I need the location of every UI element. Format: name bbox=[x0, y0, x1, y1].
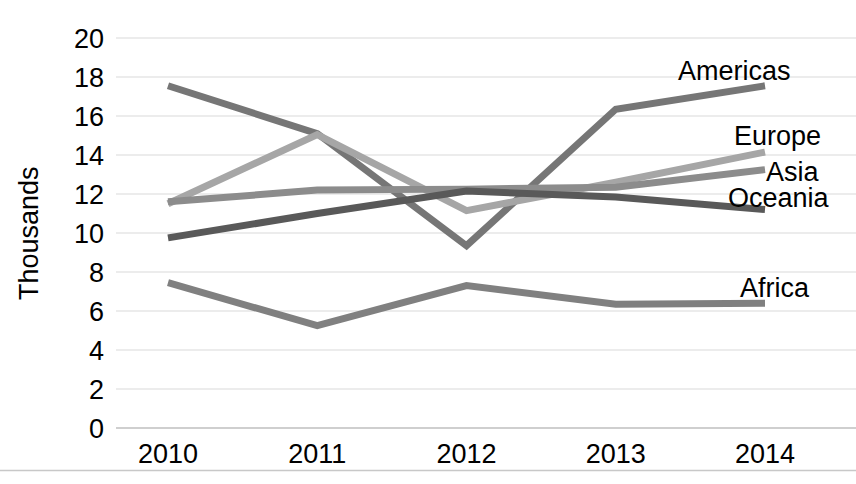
series-label-europe: Europe bbox=[734, 121, 821, 151]
x-tick-label: 2014 bbox=[735, 439, 795, 469]
y-tick-label: 10 bbox=[74, 219, 104, 249]
y-tick-label: 16 bbox=[74, 102, 104, 132]
y-tick-label: 0 bbox=[89, 414, 104, 444]
gridlines-group bbox=[116, 38, 856, 428]
y-axis-tick-labels: 02468101214161820 bbox=[74, 24, 104, 444]
x-tick-label: 2010 bbox=[138, 439, 198, 469]
y-tick-label: 12 bbox=[74, 180, 104, 210]
series-label-oceania: Oceania bbox=[728, 183, 830, 213]
series-lines-group bbox=[168, 86, 765, 326]
x-tick-label: 2012 bbox=[436, 439, 496, 469]
x-tick-label: 2011 bbox=[288, 439, 346, 469]
line-chart: 02468101214161820 20102011201220132014 T… bbox=[0, 0, 856, 484]
y-tick-label: 2 bbox=[89, 375, 104, 405]
series-label-americas: Americas bbox=[678, 56, 791, 86]
y-tick-label: 6 bbox=[89, 297, 104, 327]
y-tick-label: 20 bbox=[74, 24, 104, 54]
y-tick-label: 14 bbox=[74, 141, 104, 171]
series-line-asia bbox=[168, 170, 765, 202]
y-tick-label: 18 bbox=[74, 63, 104, 93]
series-label-africa: Africa bbox=[740, 273, 810, 303]
y-axis-title: Thousands bbox=[14, 166, 44, 300]
chart-page: 02468101214161820 20102011201220132014 T… bbox=[0, 0, 856, 484]
y-tick-label: 4 bbox=[89, 336, 104, 366]
series-line-africa bbox=[168, 283, 765, 326]
x-tick-label: 2013 bbox=[586, 439, 646, 469]
x-axis-tick-labels: 20102011201220132014 bbox=[138, 439, 795, 469]
y-tick-label: 8 bbox=[89, 258, 104, 288]
